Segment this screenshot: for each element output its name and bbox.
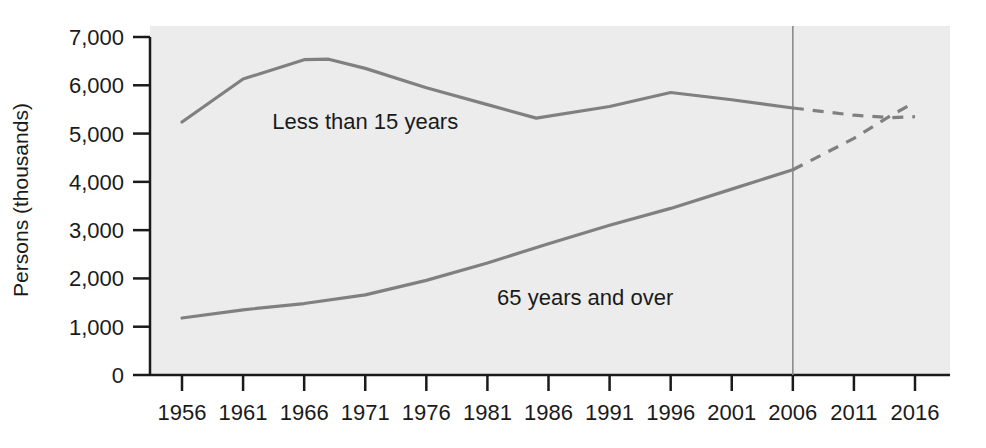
y-axis-ticks [133, 37, 150, 375]
y-tick-label: 4,000 [69, 170, 124, 195]
x-tick-label: 1981 [463, 400, 512, 425]
y-tick-label: 6,000 [69, 73, 124, 98]
y-tick-label: 5,000 [69, 122, 124, 147]
x-tick-label: 2016 [891, 400, 940, 425]
x-tick-label: 1961 [219, 400, 268, 425]
x-tick-label: 1991 [585, 400, 634, 425]
y-tick-label: 1,000 [69, 315, 124, 340]
y-tick-label: 0 [112, 363, 124, 388]
x-tick-label: 2001 [707, 400, 756, 425]
y-tick-label: 3,000 [69, 218, 124, 243]
population-projection-line-chart: 01,0002,0003,0004,0005,0006,0007,000 195… [0, 0, 986, 448]
x-axis-ticks [182, 375, 915, 391]
y-tick-label: 2,000 [69, 266, 124, 291]
x-tick-label: 2011 [830, 400, 877, 425]
x-tick-label: 1956 [158, 400, 207, 425]
x-tick-label: 1966 [280, 400, 329, 425]
x-tick-label: 2006 [768, 400, 817, 425]
series-annotation-label: 65 years and over [497, 285, 673, 310]
x-tick-label: 1986 [524, 400, 573, 425]
x-tick-label: 1996 [646, 400, 695, 425]
plot-area-background [150, 26, 950, 375]
y-tick-label: 7,000 [69, 25, 124, 50]
chart-container: 01,0002,0003,0004,0005,0006,0007,000 195… [0, 0, 986, 448]
x-axis-tick-labels: 1956196119661971197619811986199119962001… [158, 400, 940, 425]
y-axis-title: Persons (thousands) [9, 103, 32, 297]
x-tick-label: 1976 [402, 400, 451, 425]
y-axis-tick-labels: 01,0002,0003,0004,0005,0006,0007,000 [69, 25, 124, 388]
series-annotation-label: Less than 15 years [272, 109, 458, 134]
x-tick-label: 1971 [341, 400, 390, 425]
